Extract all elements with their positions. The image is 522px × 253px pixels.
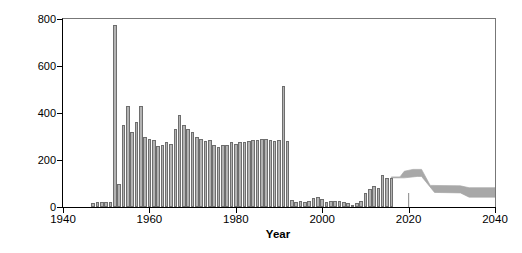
bar [195, 137, 199, 208]
bar [355, 203, 359, 207]
y-tick-label: 400 [38, 107, 56, 119]
bar [385, 178, 389, 207]
x-tick-label: 1980 [223, 213, 249, 225]
bar [169, 144, 173, 207]
bar [282, 86, 286, 207]
bar [372, 186, 376, 207]
bar [178, 115, 182, 207]
bar [264, 139, 268, 207]
bar [346, 203, 350, 207]
y-tick-label: 800 [38, 13, 56, 25]
bar [368, 189, 372, 207]
bar [199, 139, 203, 207]
bar [221, 145, 225, 207]
x-tick-label: 1940 [50, 213, 76, 225]
bar [364, 193, 368, 207]
bar [100, 202, 104, 207]
y-tick-mark [57, 113, 63, 114]
bar [117, 184, 121, 208]
bar [251, 140, 255, 207]
bar [217, 147, 221, 207]
bar [316, 197, 320, 207]
bar [165, 142, 169, 207]
bar [186, 129, 190, 207]
y-tick-mark [57, 66, 63, 67]
bar [351, 205, 355, 207]
bar [307, 201, 311, 207]
bar [299, 201, 303, 207]
bar [161, 145, 165, 207]
bar [243, 142, 247, 207]
plot-canvas [63, 19, 495, 207]
bar [333, 201, 337, 207]
bar [286, 141, 290, 207]
chart-figure: Number of U.S. ground deterrence mission… [0, 0, 522, 253]
y-tick-label: 0 [50, 201, 56, 213]
bar [325, 202, 329, 207]
bar [320, 199, 324, 207]
x-tick-label: 2020 [396, 213, 422, 225]
bar [247, 141, 251, 207]
bar [269, 140, 273, 207]
bar [273, 141, 277, 207]
y-tick-mark [57, 19, 63, 20]
bar [377, 188, 381, 207]
minor-tick-2020 [408, 193, 409, 207]
bar [225, 145, 229, 207]
bar [208, 140, 212, 207]
bar [91, 203, 95, 207]
bar [303, 202, 307, 207]
bar [290, 200, 294, 207]
bar [256, 140, 260, 207]
y-tick-label: 600 [38, 60, 56, 72]
bar [238, 142, 242, 207]
x-tick-label: 2040 [482, 213, 508, 225]
bar [122, 125, 126, 207]
bar [148, 139, 152, 207]
bar [260, 139, 264, 207]
bar [390, 178, 394, 207]
bar [212, 145, 216, 207]
plot-area: 0200400600800 194019601980200020202040 [62, 18, 496, 208]
projection-band-shape [391, 169, 495, 197]
bar [174, 129, 178, 207]
bar [152, 140, 156, 207]
bar [191, 132, 195, 207]
bar [359, 201, 363, 207]
bar [234, 144, 238, 207]
bar [312, 198, 316, 207]
bar [342, 202, 346, 207]
bar [109, 202, 113, 207]
x-axis-title: Year [62, 228, 494, 240]
bar [135, 122, 139, 207]
x-tick-label: 1960 [137, 213, 163, 225]
y-tick-label: 200 [38, 154, 56, 166]
bar [96, 202, 100, 207]
bar [113, 25, 117, 207]
bar [143, 137, 147, 208]
bar [130, 132, 134, 207]
bar [230, 142, 234, 207]
bar [139, 106, 143, 207]
bar [104, 202, 108, 207]
bar [338, 201, 342, 207]
bar [277, 140, 281, 207]
bar [204, 141, 208, 207]
x-tick-label: 2000 [309, 213, 335, 225]
bar [294, 202, 298, 207]
bar [381, 175, 385, 207]
bar [182, 125, 186, 207]
bar [156, 146, 160, 207]
bar [126, 106, 130, 207]
y-tick-mark [57, 160, 63, 161]
bar [329, 201, 333, 207]
